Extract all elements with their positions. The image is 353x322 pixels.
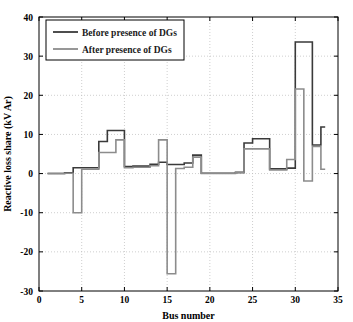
x-tick-label: 35 <box>333 295 343 305</box>
data-series-layer <box>48 42 326 274</box>
x-tick-label: 25 <box>248 295 258 305</box>
legend-label-after: After presence of DGs <box>82 45 172 55</box>
y-tick-label: 10 <box>24 130 34 140</box>
chart-figure: 05101520253035 -30-20-10010203040 Bus nu… <box>0 0 353 322</box>
x-axis-tick-labels: 05101520253035 <box>37 295 343 305</box>
series-before-presence-of-dgs <box>48 42 326 174</box>
x-tick-label: 20 <box>205 295 215 305</box>
y-axis-title: Reactive loss share (kV Ar) <box>2 96 14 212</box>
y-tick-label: 20 <box>24 91 34 101</box>
x-tick-label: 0 <box>37 295 42 305</box>
x-tick-label: 30 <box>291 295 301 305</box>
y-tick-label: -20 <box>20 247 33 257</box>
y-tick-label: 30 <box>24 52 34 62</box>
x-tick-label: 15 <box>162 295 172 305</box>
y-tick-label: 0 <box>28 169 33 179</box>
x-tick-label: 5 <box>79 295 84 305</box>
y-tick-label: 40 <box>24 13 34 23</box>
x-axis-title: Bus number <box>162 310 215 321</box>
series-after-presence-of-dgs <box>48 89 326 274</box>
chart-legend: Before presence of DGs After presence of… <box>46 20 184 60</box>
x-tick-label: 10 <box>120 295 130 305</box>
y-axis-tick-labels: -30-20-10010203040 <box>20 13 33 297</box>
y-tick-label: -30 <box>20 287 33 297</box>
legend-label-before: Before presence of DGs <box>82 28 177 38</box>
reactive-loss-share-chart: 05101520253035 -30-20-10010203040 Bus nu… <box>0 0 353 322</box>
y-tick-label: -10 <box>20 208 33 218</box>
